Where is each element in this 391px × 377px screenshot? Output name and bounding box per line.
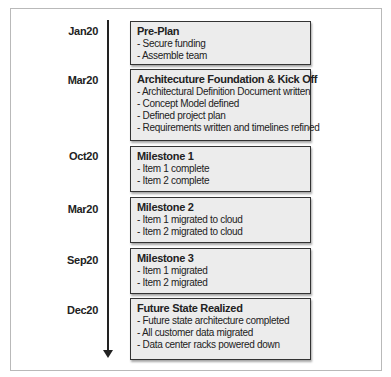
milestone-item: - Data center racks powered down [137,339,304,351]
milestone-title: Architecuture Foundation & Kick Off [137,73,304,86]
milestone-item: - Future state architecture completed [137,315,304,327]
milestone-box-milestone-1: Milestone 1 - Item 1 complete - Item 2 c… [130,146,311,192]
milestone-title: Milestone 2 [137,201,304,214]
milestone-item: - Assemble team [137,50,304,62]
milestone-item: - Concept Model defined [137,98,304,110]
date-label: Mar20 [20,203,98,215]
milestone-title: Pre-Plan [137,25,304,38]
milestone-box-milestone-3: Milestone 3 - Item 1 migrated - Item 2 m… [130,248,311,294]
arrow-down-icon [103,350,113,358]
date-label: Sep20 [20,254,98,266]
milestone-item: - Item 1 migrated [137,265,304,277]
milestone-title: Milestone 1 [137,150,304,163]
date-label: Jan20 [20,25,98,37]
milestone-item: - Item 1 migrated to cloud [137,214,304,226]
milestone-title: Milestone 3 [137,252,304,265]
milestone-box-milestone-2: Milestone 2 - Item 1 migrated to cloud -… [130,197,311,243]
milestone-box-pre-plan: Pre-Plan - Secure funding - Assemble tea… [130,21,311,65]
milestone-box-architecture: Architecuture Foundation & Kick Off - Ar… [130,69,311,141]
date-label: Dec20 [20,304,98,316]
milestone-item: - Item 1 complete [137,163,304,175]
milestone-box-future-state: Future State Realized - Future state arc… [130,298,311,360]
milestone-item: - All customer data migrated [137,327,304,339]
milestone-title: Future State Realized [137,302,304,315]
milestone-item: - Defined project plan [137,110,304,122]
timeline-axis [107,20,109,352]
milestone-item: - Item 2 migrated to cloud [137,226,304,238]
milestone-item: - Requirements written and timelines ref… [137,122,304,134]
date-label: Mar20 [20,74,98,86]
milestone-item: - Item 2 migrated [137,277,304,289]
milestone-item: - Item 2 complete [137,175,304,187]
milestone-item: - Secure funding [137,38,304,50]
milestone-item: - Architectural Definition Document writ… [137,86,304,98]
date-label: Oct20 [20,150,98,162]
